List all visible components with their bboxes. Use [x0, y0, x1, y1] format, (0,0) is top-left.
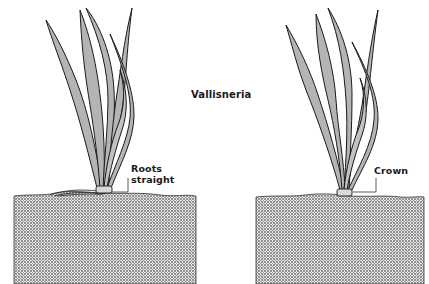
left-soil [14, 191, 196, 284]
roots-label-line-1: Roots [131, 163, 174, 174]
right-soil [256, 194, 424, 284]
roots-label-line-2: straight [131, 174, 174, 185]
crown-label: Crown [374, 165, 408, 176]
left-plant [46, 8, 134, 196]
right-plant [286, 8, 378, 196]
right-crown-band [337, 189, 352, 196]
vallisneria-diagram: Vallisneria Roots straight Crown [0, 0, 429, 284]
diagram-title: Vallisneria [191, 89, 251, 100]
left-crown-band [96, 186, 112, 193]
diagram-canvas [0, 0, 429, 284]
roots-straight-label: Roots straight [131, 163, 174, 185]
